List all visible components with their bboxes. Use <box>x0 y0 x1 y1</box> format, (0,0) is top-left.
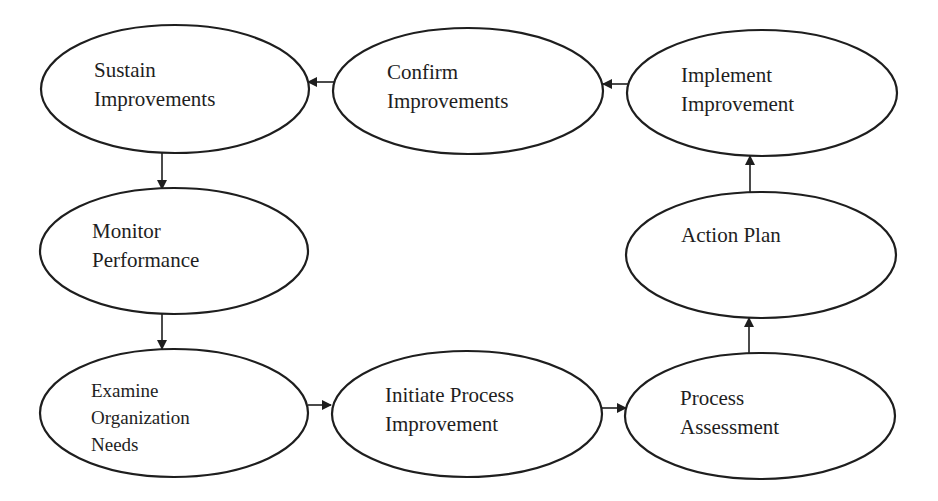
label-line: Performance <box>92 246 199 275</box>
node-label-examine: Examine Organization Needs <box>91 377 190 458</box>
node-label-confirm: Confirm Improvements <box>387 58 508 116</box>
label-line: Action Plan <box>681 221 781 250</box>
label-line: Confirm <box>387 58 508 87</box>
label-line: Assessment <box>680 413 779 442</box>
node-label-initiate: Initiate Process Improvement <box>385 381 514 439</box>
label-line: Improvement <box>385 410 514 439</box>
label-line: Improvements <box>387 87 508 116</box>
node-label-action: Action Plan <box>681 221 781 250</box>
label-line: Examine <box>91 377 190 404</box>
node-label-monitor: Monitor Performance <box>92 217 199 275</box>
node-action <box>626 192 896 318</box>
node-label-sustain: Sustain Improvements <box>94 56 215 114</box>
label-line: Organization <box>91 404 190 431</box>
label-line: Improvements <box>94 85 215 114</box>
label-line: Monitor <box>92 217 199 246</box>
node-label-implement: Implement Improvement <box>681 61 794 119</box>
label-line: Sustain <box>94 56 215 85</box>
node-label-assess: Process Assessment <box>680 384 779 442</box>
label-line: Improvement <box>681 90 794 119</box>
label-line: Implement <box>681 61 794 90</box>
label-line: Initiate Process <box>385 381 514 410</box>
label-line: Needs <box>91 431 190 458</box>
label-line: Process <box>680 384 779 413</box>
